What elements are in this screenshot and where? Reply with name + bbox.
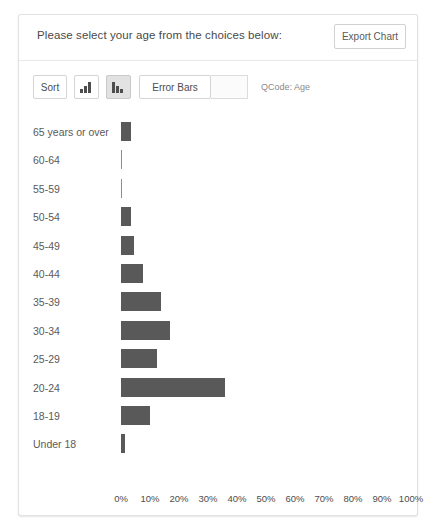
category-label: 20-24 <box>33 382 121 394</box>
chart-card-panel: Please select your age from the choices … <box>18 14 418 516</box>
horizontal-bar-chart: 65 years or over60-6455-5950-5445-4940-4… <box>19 119 419 515</box>
chart-row: 60-64 <box>19 147 419 173</box>
chart-row: 25-29 <box>19 346 419 372</box>
sort-descending-button[interactable] <box>106 75 131 99</box>
chart-row: 45-49 <box>19 233 419 259</box>
x-axis: 0%10%20%30%40%50%60%70%80%90%100% <box>121 493 411 513</box>
bar-ascending-icon <box>80 81 93 93</box>
chart-row: 40-44 <box>19 261 419 287</box>
category-label: Under 18 <box>33 438 121 450</box>
category-label: 45-49 <box>33 240 121 252</box>
chart-row: Under 18 <box>19 431 419 457</box>
axis-tick-label: 90% <box>372 493 391 504</box>
chart-bar[interactable] <box>121 434 125 453</box>
category-label: 65 years or over <box>33 126 121 138</box>
category-label: 30-34 <box>33 325 121 337</box>
bar-descending-icon <box>112 81 125 93</box>
chart-row: 18-19 <box>19 403 419 429</box>
axis-tick-label: 30% <box>198 493 217 504</box>
axis-tick-label: 60% <box>285 493 304 504</box>
chart-row: 30-34 <box>19 318 419 344</box>
category-label: 60-64 <box>33 154 121 166</box>
chart-bar[interactable] <box>121 321 170 340</box>
chart-row: 20-24 <box>19 375 419 401</box>
chart-toolbar: Sort Error Bars QCode: Age <box>33 75 310 99</box>
question-prompt: Please select your age from the choices … <box>37 29 282 41</box>
chart-row: 65 years or over <box>19 119 419 145</box>
error-bars-button[interactable]: Error Bars <box>139 75 211 99</box>
category-label: 25-29 <box>33 353 121 365</box>
panel-header: Please select your age from the choices … <box>19 15 417 61</box>
export-chart-button[interactable]: Export Chart <box>334 24 406 49</box>
axis-tick-label: 0% <box>114 493 128 504</box>
qcode-label: QCode: Age <box>261 82 310 92</box>
chart-bar[interactable] <box>121 292 161 311</box>
category-label: 40-44 <box>33 268 121 280</box>
chart-bar[interactable] <box>121 122 131 141</box>
sort-button[interactable]: Sort <box>33 75 67 99</box>
axis-tick-label: 70% <box>314 493 333 504</box>
chart-bar[interactable] <box>121 179 122 198</box>
category-label: 50-54 <box>33 211 121 223</box>
axis-tick-label: 10% <box>140 493 159 504</box>
axis-tick-label: 20% <box>169 493 188 504</box>
chart-row: 50-54 <box>19 204 419 230</box>
chart-bar[interactable] <box>121 150 122 169</box>
chart-bar[interactable] <box>121 207 131 226</box>
chart-bar[interactable] <box>121 378 225 397</box>
axis-tick-label: 100% <box>399 493 423 504</box>
chart-bar[interactable] <box>121 406 150 425</box>
chart-row: 55-59 <box>19 176 419 202</box>
chart-row: 35-39 <box>19 289 419 315</box>
error-bars-input[interactable] <box>211 75 248 99</box>
sort-ascending-button[interactable] <box>74 75 99 99</box>
axis-tick-label: 40% <box>227 493 246 504</box>
axis-tick-label: 80% <box>343 493 362 504</box>
axis-tick-label: 50% <box>256 493 275 504</box>
category-label: 18-19 <box>33 410 121 422</box>
chart-bar[interactable] <box>121 264 143 283</box>
chart-bar[interactable] <box>121 236 134 255</box>
category-label: 55-59 <box>33 183 121 195</box>
chart-bar[interactable] <box>121 349 157 368</box>
category-label: 35-39 <box>33 296 121 308</box>
